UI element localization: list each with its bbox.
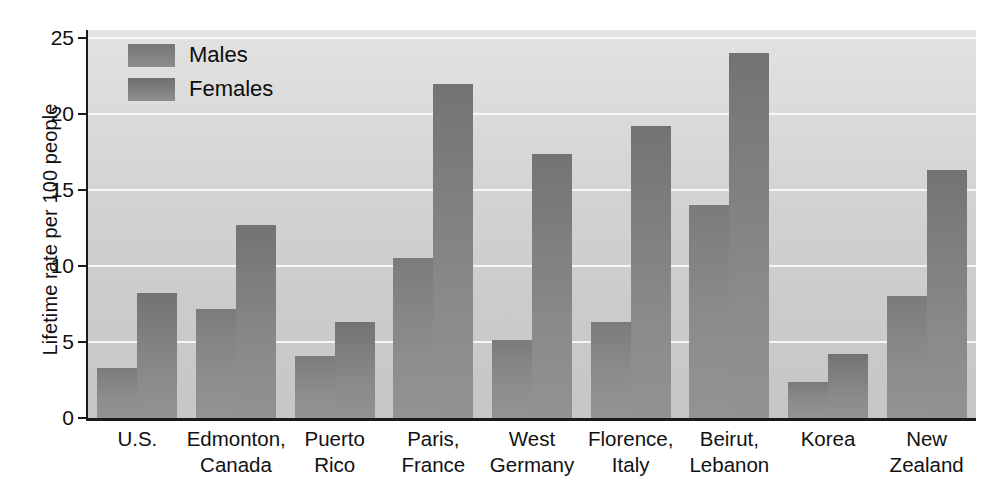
x-axis-label: Paris,France — [384, 426, 483, 478]
x-axis-label-line2: France — [384, 452, 483, 478]
x-axis-label-line1: New — [906, 427, 947, 450]
legend-label-males: Males — [189, 44, 248, 66]
x-axis-label: Beirut,Lebanon — [680, 426, 779, 478]
y-tick-label: 25 — [28, 27, 74, 48]
x-axis-label: PuertoRico — [285, 426, 384, 478]
x-axis-label-line1: Florence, — [588, 427, 673, 450]
x-axis-label-line1: Puerto — [304, 427, 364, 450]
y-tick-mark — [78, 265, 88, 267]
bar-male — [887, 296, 927, 418]
bar-group — [680, 30, 779, 418]
bar-group — [483, 30, 582, 418]
bar-group — [581, 30, 680, 418]
legend-item-females: Females — [128, 72, 338, 106]
y-tick-mark — [78, 37, 88, 39]
y-tick-label: 5 — [28, 331, 74, 352]
x-axis-label: WestGermany — [483, 426, 582, 478]
y-tick-label: 10 — [28, 255, 74, 276]
y-tick-label: 15 — [28, 179, 74, 200]
bar-group — [877, 30, 976, 418]
bar-female — [236, 225, 276, 418]
y-tick-mark — [78, 341, 88, 343]
x-axis-label: U.S. — [88, 426, 187, 452]
x-axis-label-line2: Rico — [285, 452, 384, 478]
bar-group — [779, 30, 878, 418]
x-axis-label: NewZealand — [877, 426, 976, 478]
bar-female — [729, 53, 769, 418]
y-axis-tick-labels: 2520151050 — [12, 0, 74, 496]
x-axis-label-line1: U.S. — [117, 427, 157, 450]
bar-male — [591, 322, 631, 418]
x-axis-line — [86, 418, 976, 421]
legend-swatch-females — [128, 78, 175, 101]
bar-male — [788, 382, 828, 418]
legend-label-females: Females — [189, 78, 273, 100]
bar-female — [631, 126, 671, 418]
bar-female — [335, 322, 375, 418]
bar-female — [137, 293, 177, 418]
x-axis-label-line1: West — [509, 427, 555, 450]
bar-female — [433, 84, 473, 418]
x-axis-category-labels: U.S.Edmonton,CanadaPuertoRicoParis,Franc… — [88, 426, 976, 492]
y-tick-mark — [78, 113, 88, 115]
x-axis-label-line2: Zealand — [877, 452, 976, 478]
legend-swatch-males — [128, 44, 175, 67]
x-axis-label-line1: Paris, — [407, 427, 459, 450]
x-axis-label-line1: Beirut, — [700, 427, 759, 450]
y-tick-label: 0 — [28, 407, 74, 428]
x-axis-label-line1: Korea — [801, 427, 856, 450]
y-tick-label: 20 — [28, 103, 74, 124]
bar-male — [689, 205, 729, 418]
bar-group — [384, 30, 483, 418]
x-axis-label: Florence,Italy — [581, 426, 680, 478]
legend-item-males: Males — [128, 38, 338, 72]
x-axis-label-line2: Italy — [581, 452, 680, 478]
bar-female — [532, 154, 572, 418]
bar-female — [927, 170, 967, 418]
chart-legend: Males Females — [128, 38, 338, 106]
x-axis-label-line2: Lebanon — [680, 452, 779, 478]
x-axis-label-line1: Edmonton, — [187, 427, 286, 450]
bar-male — [97, 368, 137, 418]
bar-chart: Lifetime rate per 100 people 2520151050 … — [0, 0, 997, 496]
bar-male — [492, 340, 532, 418]
y-tick-mark — [78, 189, 88, 191]
bar-male — [393, 258, 433, 418]
x-axis-label-line2: Germany — [483, 452, 582, 478]
bar-male — [295, 356, 335, 418]
x-axis-label: Korea — [779, 426, 878, 452]
y-tick-mark — [78, 417, 88, 419]
x-axis-label-line2: Canada — [187, 452, 286, 478]
bar-female — [828, 354, 868, 418]
bar-male — [196, 309, 236, 418]
x-axis-label: Edmonton,Canada — [187, 426, 286, 478]
